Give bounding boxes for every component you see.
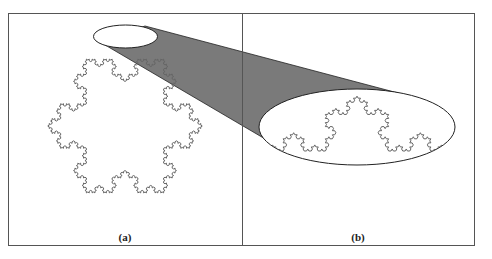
figure-canvas (0, 0, 492, 259)
panel-label-a: (a) (119, 231, 132, 243)
panel-label-b: (b) (351, 231, 364, 243)
zoom-region-ellipse (94, 25, 158, 48)
magnified-ellipse (259, 89, 455, 165)
